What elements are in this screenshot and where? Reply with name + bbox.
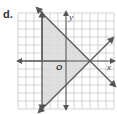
y-axis-label: y: [68, 12, 73, 22]
origin-label: O: [56, 63, 63, 72]
x-axis-label: x: [106, 62, 111, 72]
coordinate-graph: y x O: [0, 0, 117, 114]
